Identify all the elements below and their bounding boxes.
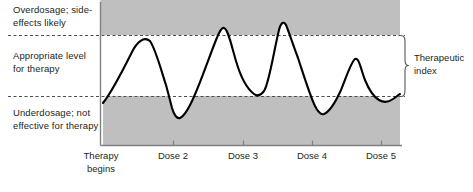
therapeutic-index-label: Therapeutic index — [414, 52, 472, 77]
tick-label-dose-3: Dose 3 — [213, 150, 273, 163]
zone-label-underdosage: Underdosage; not effective for therapy — [13, 107, 105, 132]
tick-label-dose-2: Dose 2 — [143, 150, 203, 163]
zone-label-overdosage: Overdosage; side- effects likely — [13, 4, 105, 29]
underdosage-shaded-area — [103, 23, 400, 150]
tick-label-therapy-begins: Therapy begins — [71, 150, 131, 175]
therapeutic-index-brace — [401, 36, 409, 97]
zone-label-appropriate: Appropriate level for therapy — [13, 50, 105, 75]
tick-label-dose-5: Dose 5 — [351, 150, 411, 163]
tick-label-dose-4: Dose 4 — [282, 150, 342, 163]
drug-concentration-figure: Overdosage; side- effects likely Appropr… — [0, 0, 473, 192]
